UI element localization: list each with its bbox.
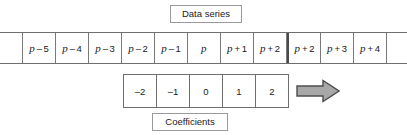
data-series-cell: p [187,33,221,63]
data-series-cell-operator: + [333,43,342,54]
coefficient-cell: 0 [189,74,223,108]
data-series-cell-offset: 4 [77,43,82,54]
data-series-cell-offset: 4 [375,43,380,54]
data-series-cell-variable: p [201,42,207,54]
data-series-cell-operator: + [266,43,275,54]
data-series-cell-offset: 2 [143,43,148,54]
data-series-tape: p–5p–4p–3p–2p–1pp+1p+2p+2p+3p+4 [0,32,407,64]
data-series-cell-operator: + [301,43,310,54]
data-series-cell-offset: 2 [275,43,280,54]
data-series-cell: p+2 [253,33,287,63]
data-series-cell-offset: 3 [110,43,115,54]
data-series-cell-offset: 2 [309,43,314,54]
data-series-cell: p–5 [22,33,56,63]
coefficients-cell-list: –2–1012 [123,74,288,108]
data-series-cell-operator: – [68,43,76,54]
data-series-cell-offset: 3 [342,43,347,54]
data-series-cell: p–4 [55,33,89,63]
data-series-cell-offset: 1 [242,43,247,54]
data-series-cell-offset: 5 [44,43,49,54]
data-series-cell: p+3 [320,33,354,63]
convolution-diagram: Data series p–5p–4p–3p–2p–1pp+1p+2p+2p+3… [0,0,407,135]
data-series-cell: p–2 [121,33,155,63]
data-series-cell-list: p–5p–4p–3p–2p–1pp+1p+2p+2p+3p+4 [22,33,386,63]
right-arrow-icon [296,79,340,103]
data-series-label: Data series [170,5,242,23]
data-series-cell-offset: 1 [176,43,181,54]
data-series-cell-operator: + [233,43,242,54]
coefficient-cell: 1 [222,74,256,108]
data-series-cell-operator: + [366,43,375,54]
data-series-cell: p+4 [353,33,387,63]
coefficient-cell: –1 [156,74,190,108]
tape-rail-bottom [0,63,407,64]
data-series-cell: p–1 [154,33,188,63]
coefficient-cell: 2 [255,74,289,108]
data-series-cell-operator: – [167,43,175,54]
data-series-cell-operator: – [35,43,43,54]
data-series-cell-operator: – [134,43,142,54]
data-series-cell: p+2 [287,33,321,63]
coefficients-label: Coefficients [152,113,228,131]
data-series-cell-operator: – [101,43,109,54]
coefficient-cell: –2 [123,74,157,108]
data-series-cell: p+1 [220,33,254,63]
data-series-cell: p–3 [88,33,122,63]
